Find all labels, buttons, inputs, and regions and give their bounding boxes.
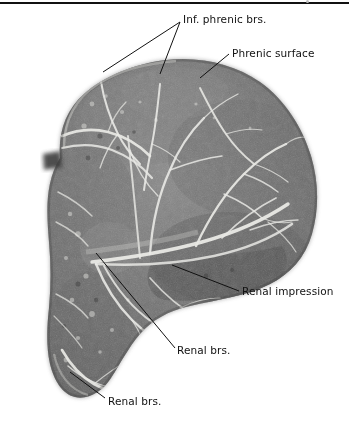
label-renal-brs-middle: Renal brs. [177,345,230,356]
top-divider-rule [0,2,349,4]
label-renal-brs-lower: Renal brs. [108,396,161,407]
specimen-radiograph [0,8,349,428]
figure-page: Inf. phrenic brs. Phrenic surface Renal … [0,0,349,428]
anatomical-figure [0,8,349,428]
label-inf-phrenic-brs: Inf. phrenic brs. [183,14,266,25]
top-right-speck [306,0,309,3]
left-border-notch [43,151,62,170]
label-phrenic-surface: Phrenic surface [232,48,315,59]
label-renal-impression: Renal impression [242,286,334,297]
specimen-body [0,8,349,428]
